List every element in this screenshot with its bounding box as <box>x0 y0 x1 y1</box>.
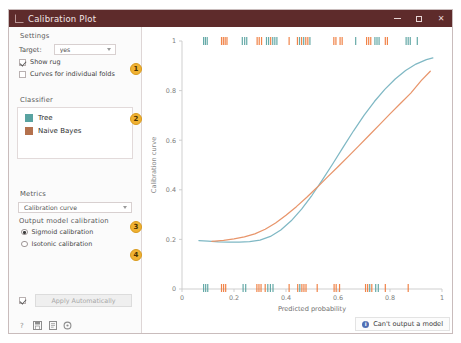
metrics-group-title: Metrics <box>9 185 141 201</box>
radio-label: Isotonic calibration <box>32 240 93 248</box>
settings-group: Settings Target: yes Show rug Curves for… <box>9 27 141 80</box>
report-icon[interactable] <box>48 321 57 330</box>
callout-badge-1: 1 <box>130 63 142 75</box>
calibration-chart: 00.20.40.60.8100.20.40.60.81Predicted pr… <box>142 27 452 334</box>
window-titlebar: Calibration Plot ✕ <box>9 10 452 27</box>
radio-isotonic-calibration[interactable]: Isotonic calibration <box>9 238 141 250</box>
checkbox-icon <box>19 71 26 78</box>
callout-badge-2: 2 <box>130 113 142 125</box>
control-sidebar: Settings Target: yes Show rug Curves for… <box>9 27 142 333</box>
show-rug-checkbox[interactable]: Show rug <box>9 56 141 68</box>
svg-text:0: 0 <box>180 294 184 302</box>
classifier-label: Naive Bayes <box>38 127 81 135</box>
list-item[interactable]: Tree <box>18 111 132 124</box>
radio-sigmoid-calibration[interactable]: Sigmoid calibration <box>9 226 141 238</box>
info-icon: i <box>362 321 369 328</box>
metric-select[interactable]: Calibration curve <box>18 202 132 213</box>
target-label: Target: <box>19 46 42 54</box>
list-item[interactable]: Naive Bayes <box>18 124 132 137</box>
classifier-label: Tree <box>38 114 53 122</box>
target-value: yes <box>60 46 107 53</box>
save-icon[interactable] <box>33 321 42 330</box>
status-bar: i Can't output a model <box>355 317 450 331</box>
callout-badge-3: 3 <box>130 221 142 233</box>
calibration-plot-window: Calibration Plot ✕ Settings Target: yes <box>8 9 453 334</box>
callout-badge-4: 4 <box>130 249 142 261</box>
metric-value: Calibration curve <box>24 204 123 211</box>
svg-text:0.8: 0.8 <box>385 294 395 302</box>
apply-button-label: Apply Automatically <box>51 297 115 305</box>
app-icon <box>15 14 24 23</box>
svg-text:Predicted probability: Predicted probability <box>278 305 346 313</box>
radio-icon <box>21 229 28 236</box>
svg-text:0.6: 0.6 <box>333 294 343 302</box>
window-controls: ✕ <box>386 10 452 27</box>
svg-text:?: ? <box>20 322 24 330</box>
svg-text:0.8: 0.8 <box>166 87 176 95</box>
color-swatch-icon <box>25 114 33 122</box>
chevron-down-icon <box>107 48 111 51</box>
settings-group-title: Settings <box>9 27 141 43</box>
settings-icon[interactable] <box>63 321 72 330</box>
metrics-group: Metrics Calibration curve Output model c… <box>9 185 141 250</box>
classifier-group-title: Classifier <box>9 91 141 107</box>
svg-text:Calibration curve: Calibration curve <box>150 137 158 193</box>
apply-row: Apply Automatically <box>9 294 141 307</box>
radio-icon <box>21 241 28 248</box>
show-rug-label: Show rug <box>30 58 61 66</box>
target-select[interactable]: yes <box>54 44 116 55</box>
svg-text:0: 0 <box>172 285 176 293</box>
classifier-group: Classifier Tree Naive Bayes <box>9 91 141 159</box>
sidebar-toolbar: ? <box>9 321 72 330</box>
individual-folds-label: Curves for individual folds <box>30 70 115 78</box>
window-title: Calibration Plot <box>28 14 96 24</box>
plot-area[interactable]: 00.20.40.60.8100.20.40.60.81Predicted pr… <box>142 27 452 333</box>
target-row: Target: yes <box>9 43 141 56</box>
svg-text:0.6: 0.6 <box>166 137 176 145</box>
svg-text:1: 1 <box>440 294 444 302</box>
svg-text:0.4: 0.4 <box>166 186 176 194</box>
help-icon[interactable]: ? <box>18 321 27 330</box>
maximize-button[interactable] <box>408 10 430 27</box>
close-button[interactable]: ✕ <box>430 10 452 27</box>
svg-text:1: 1 <box>172 37 176 45</box>
svg-text:0.2: 0.2 <box>166 236 176 244</box>
checkbox-icon <box>19 59 26 66</box>
classifier-list[interactable]: Tree Naive Bayes <box>17 107 133 159</box>
window-body: Settings Target: yes Show rug Curves for… <box>9 27 452 333</box>
status-message: Can't output a model <box>373 320 443 328</box>
output-calibration-label: Output model calibration <box>9 213 141 226</box>
radio-label: Sigmoid calibration <box>32 228 94 236</box>
apply-button[interactable]: Apply Automatically <box>35 294 132 307</box>
minimize-button[interactable] <box>386 10 408 27</box>
svg-text:0.4: 0.4 <box>281 294 291 302</box>
svg-text:0.2: 0.2 <box>229 294 239 302</box>
chevron-down-icon <box>123 206 127 209</box>
color-swatch-icon <box>25 127 33 135</box>
individual-folds-checkbox[interactable]: Curves for individual folds <box>9 68 141 80</box>
apply-automatically-checkbox[interactable] <box>19 297 26 304</box>
